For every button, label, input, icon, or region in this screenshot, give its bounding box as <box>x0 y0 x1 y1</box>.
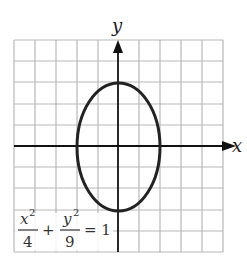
x-axis-label: x <box>232 135 242 156</box>
equation-term2-denominator: 9 <box>65 233 75 251</box>
equation-term1-exponent: 2 <box>29 207 35 218</box>
equation-term1-numerator: x <box>20 210 29 228</box>
equation-term2-exponent: 2 <box>73 207 79 218</box>
equation-term2-numerator: y <box>62 210 72 228</box>
equation-term1-denominator: 4 <box>23 233 33 251</box>
ellipse-graph: y x x 2 4 + y 2 9 = 1 <box>0 0 247 264</box>
y-axis-label: y <box>111 15 123 36</box>
equation-plus: + <box>42 221 55 239</box>
equation-equals-one: = 1 <box>84 221 111 239</box>
y-axis-arrow-icon <box>113 40 123 53</box>
x-axis <box>14 141 236 151</box>
